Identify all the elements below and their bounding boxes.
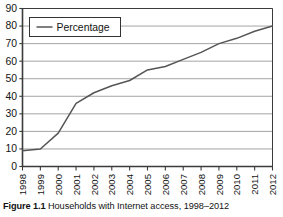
y-axis-tick-label: 10 [5,143,17,154]
legend[interactable]: Percentage [30,18,121,37]
x-axis-tick-label: 2009 [214,174,225,195]
data-line-percentage [23,26,273,151]
x-axis-tick-label: 2012 [267,174,278,195]
x-axis-tick-label: 2000 [53,174,64,195]
figure-caption-label: Figure 1.1 [3,201,45,211]
x-axis-tick-label: 2005 [142,174,153,195]
x-axis-tick-label: 2008 [196,174,207,195]
x-axis-tick-label: 2001 [71,174,82,195]
y-axis-tick-label: 90 [5,3,17,14]
y-axis-tick-label: 30 [5,108,17,119]
chart-plot-area: 0102030405060708090199819992000200120022… [0,0,283,196]
x-axis-tick-label: 2003 [106,174,117,195]
x-axis-tick-label: 2006 [160,174,171,195]
y-axis-tick-label: 0 [11,161,17,172]
y-axis-tick-label: 20 [5,126,17,137]
x-axis-tick-label: 1998 [17,174,28,195]
x-axis-tick-label: 2010 [231,174,242,195]
legend-label: Percentage [57,22,110,33]
y-axis-tick-label: 70 [5,38,17,49]
figure-caption: Figure 1.1 Households with Internet acce… [3,200,281,212]
y-axis-tick-label: 80 [5,20,17,31]
y-axis-tick-label: 40 [5,91,17,102]
line-chart-svg: 0102030405060708090199819992000200120022… [0,0,283,196]
figure-container: 0102030405060708090199819992000200120022… [0,0,283,217]
figure-caption-text: Households with Internet access, 1998–20… [48,201,229,211]
x-axis-tick-label: 2004 [124,173,135,195]
x-axis-tick-label: 1999 [35,174,46,195]
x-axis-tick-label: 2002 [89,174,100,195]
x-axis-tick-label: 2011 [249,174,260,195]
x-axis-tick-label: 2007 [178,174,189,195]
y-axis-tick-label: 50 [5,73,17,84]
y-axis-tick-label: 60 [5,56,17,67]
data-series-group [23,26,273,151]
